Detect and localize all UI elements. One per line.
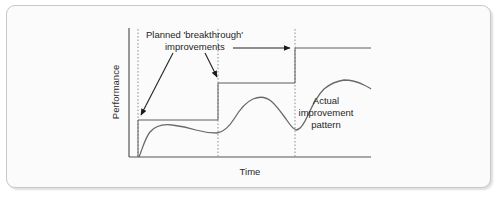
planned-improvements-label-line2: improvements: [165, 41, 225, 52]
actual-pattern-label-line1: Actual: [313, 95, 339, 106]
actual-pattern-annotation: Actual improvement pattern: [299, 95, 354, 130]
planned-improvements-label-line1: Planned 'breakthrough': [146, 29, 243, 40]
planned-improvements-annotation: Planned 'breakthrough' improvements: [141, 29, 290, 115]
y-axis-title: Performance: [110, 65, 121, 119]
arrow-to-step-2: [205, 53, 217, 77]
actual-pattern-label-line2: improvement: [299, 107, 354, 118]
performance-vs-time-chart: Planned 'breakthrough' improvements Actu…: [0, 0, 503, 199]
arrow-to-step-1: [141, 53, 173, 115]
actual-pattern-label-line3: pattern: [311, 119, 341, 130]
x-axis-title: Time: [240, 166, 261, 177]
